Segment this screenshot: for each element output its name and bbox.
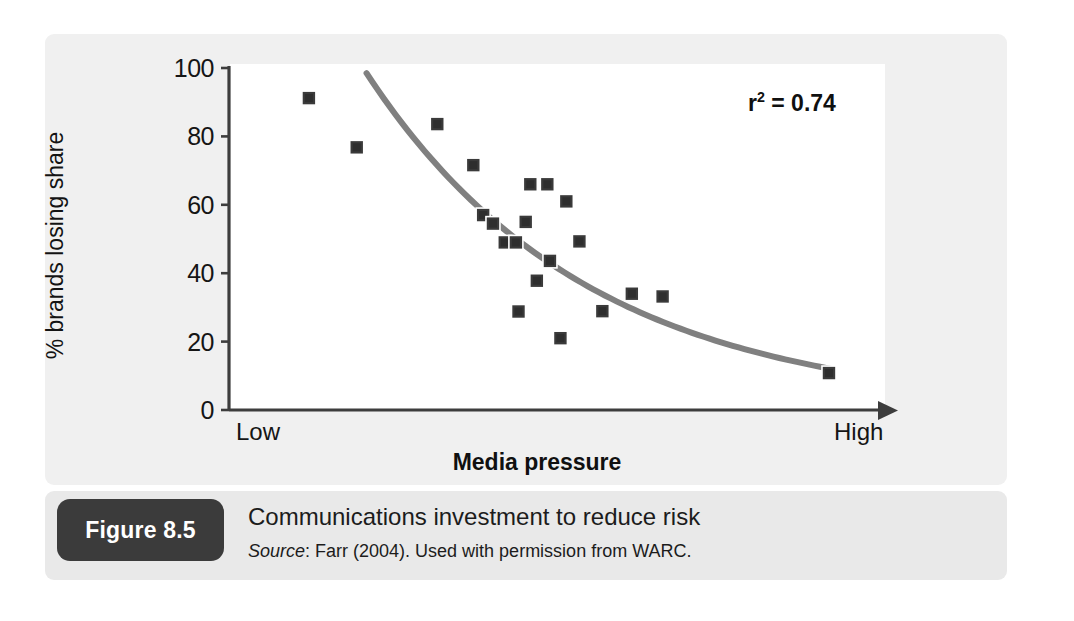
y-axis-title: % brands losing share [42, 116, 69, 376]
figure-root: 020406080100 % brands losing share Low H… [0, 0, 1074, 621]
data-point [656, 289, 670, 303]
y-tick-label: 80 [144, 124, 214, 149]
r-squared-value: = 0.74 [771, 90, 836, 116]
data-point [430, 117, 444, 131]
data-point [540, 177, 554, 191]
r-squared-symbol: r [748, 90, 757, 116]
data-point [509, 235, 523, 249]
data-point [486, 217, 500, 231]
axes-group [229, 66, 898, 420]
figure-number-badge: Figure 8.5 [57, 499, 224, 561]
x-axis-label-high: High [834, 418, 883, 446]
y-tick-label: 60 [144, 193, 214, 218]
x-axis-label-low: Low [236, 418, 280, 446]
data-point [519, 215, 533, 229]
y-tick-label: 40 [144, 261, 214, 286]
data-point [822, 366, 836, 380]
r-squared-annotation: r2 = 0.74 [748, 89, 836, 117]
figure-caption-title: Communications investment to reduce risk [248, 503, 700, 531]
data-point [512, 305, 526, 319]
figure-caption-band: Figure 8.5 Communications investment to … [45, 491, 1007, 580]
data-point [625, 287, 639, 301]
source-word: Source [248, 541, 305, 561]
figure-caption-source: Source: Farr (2004). Used with permissio… [248, 541, 691, 562]
data-point [350, 140, 364, 154]
y-tick-label: 20 [144, 330, 214, 355]
data-point [553, 331, 567, 345]
data-point [572, 234, 586, 248]
r-squared-exponent: 2 [757, 89, 765, 105]
data-point [523, 177, 537, 191]
y-tick-label: 0 [144, 398, 214, 423]
data-point [530, 274, 544, 288]
data-point [466, 158, 480, 172]
y-tick-label: 100 [144, 56, 214, 81]
data-point [543, 254, 557, 268]
data-point [302, 91, 316, 105]
source-text: : Farr (2004). Used with permission from… [305, 541, 691, 561]
data-point-group [302, 91, 836, 380]
x-axis-title: Media pressure [0, 449, 1074, 476]
data-point [559, 194, 573, 208]
data-point [595, 304, 609, 318]
